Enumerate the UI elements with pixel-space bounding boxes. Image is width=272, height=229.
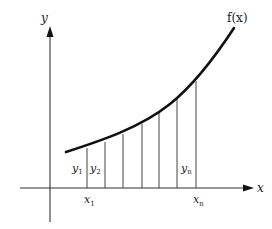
riemann-diagram: y x f(x) y1 y2 yn x1 xn [0, 0, 272, 229]
x-axis-label: x [257, 181, 264, 195]
xn-label: xn [193, 193, 204, 208]
function-curve [66, 28, 234, 152]
y1-label: y1 [71, 162, 83, 176]
y-axis-arrow-icon [47, 26, 54, 37]
x-axis-arrow-icon [243, 185, 254, 192]
diagram-canvas: y x f(x) y1 y2 yn x1 xn [0, 0, 272, 229]
y2-label: y2 [89, 162, 101, 176]
y-axis-label: y [40, 11, 48, 25]
yn-label: yn [180, 162, 192, 176]
curve-label: f(x) [227, 11, 248, 25]
x1-label: x1 [84, 193, 95, 208]
